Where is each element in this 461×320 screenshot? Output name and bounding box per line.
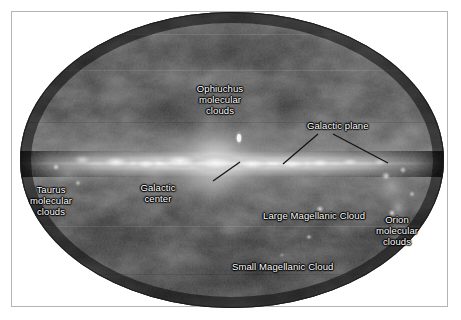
sky-map-svg bbox=[20, 12, 444, 308]
astronomy-figure: Ophiuchus molecular clouds Galactic plan… bbox=[0, 0, 461, 320]
all-sky-map-image bbox=[20, 12, 444, 308]
sky-map-content bbox=[20, 12, 444, 308]
